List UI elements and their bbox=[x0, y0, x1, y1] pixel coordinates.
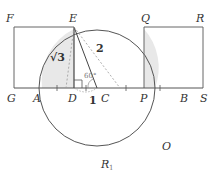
label-q: Q bbox=[141, 12, 150, 25]
label-c: C bbox=[101, 92, 110, 105]
label-g: G bbox=[7, 92, 16, 105]
label-d: D bbox=[67, 92, 77, 105]
label-b: B bbox=[179, 92, 188, 105]
label-f: F bbox=[5, 12, 14, 25]
label-r: R bbox=[195, 12, 204, 25]
label-p: P bbox=[139, 92, 148, 105]
label-s: S bbox=[200, 92, 208, 105]
right-angle-mark bbox=[74, 80, 82, 88]
dashed-arc-dc bbox=[74, 88, 97, 92]
measure-angle: 60° bbox=[84, 72, 96, 80]
label-r1-subscript: 1 bbox=[109, 164, 113, 172]
geometry-diagram: F E Q R G A D C P B S O R 1 √3 2 1 60° bbox=[0, 0, 212, 176]
label-e: E bbox=[68, 12, 77, 25]
shaded-region-right bbox=[144, 29, 159, 88]
measure-ec: 2 bbox=[96, 42, 104, 55]
measure-ed: √3 bbox=[50, 51, 65, 64]
measure-dc: 1 bbox=[89, 94, 97, 107]
label-o: O bbox=[162, 140, 171, 153]
angle-arc-c bbox=[88, 79, 93, 88]
label-a: A bbox=[32, 92, 41, 105]
label-r1: R bbox=[100, 158, 109, 171]
dashed-eb bbox=[74, 27, 120, 88]
